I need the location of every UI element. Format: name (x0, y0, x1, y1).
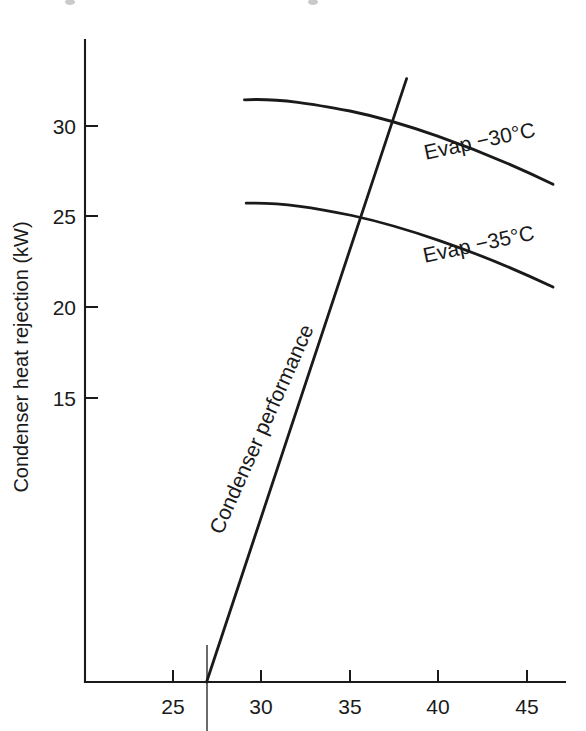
y-axis-title: Condenser heat rejection (kW) (10, 221, 32, 492)
x-axis-ticks (173, 670, 527, 682)
y-tick-label-20: 20 (53, 296, 76, 319)
scan-artifact (65, 0, 75, 5)
x-tick-label-25: 25 (161, 695, 184, 718)
x-tick-label-30: 30 (249, 695, 272, 718)
x-tick-label-45: 45 (515, 695, 538, 718)
chart-figure: 30 25 20 15 25 30 35 40 45 Condenser hea… (0, 0, 586, 731)
scan-artifact (308, 0, 318, 5)
chart-canvas: 30 25 20 15 25 30 35 40 45 Condenser hea… (0, 0, 586, 731)
label-condenser-performance: Condenser performance (205, 321, 318, 537)
y-axis-ticks (85, 126, 98, 398)
x-tick-label-40: 40 (426, 695, 449, 718)
y-tick-label-30: 30 (53, 115, 76, 138)
y-tick-label-25: 25 (53, 205, 76, 228)
x-tick-label-35: 35 (338, 695, 361, 718)
label-evap-minus-30: Evap −30°C (422, 118, 537, 164)
label-evap-minus-35: Evap −35°C (421, 221, 536, 267)
y-tick-label-15: 15 (53, 387, 76, 410)
line-condenser-performance (207, 79, 407, 682)
